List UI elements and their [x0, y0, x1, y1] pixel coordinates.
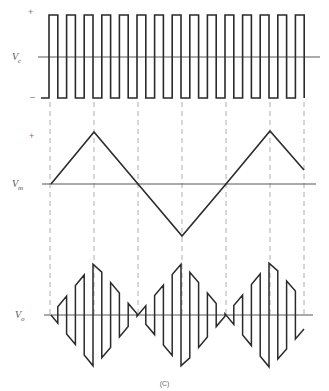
figure-caption: (C) [0, 380, 329, 387]
vc-minus-sign: – [30, 92, 35, 102]
dashed-guide-lines [50, 102, 304, 318]
vc-label-sub: c [18, 57, 21, 65]
carrier-square-wave [41, 15, 304, 98]
vo-label-sub: o [21, 315, 25, 323]
vo-label: Vo [15, 309, 25, 323]
vm-label-sub: m [18, 184, 23, 192]
modulating-triangle-wave [51, 131, 304, 236]
vc-plus-sign: + [28, 7, 33, 17]
vm-label: Vm [12, 178, 23, 192]
vc-label: Vc [12, 51, 21, 65]
waveform-figure [0, 0, 329, 391]
vm-plus-sign: + [29, 131, 34, 141]
